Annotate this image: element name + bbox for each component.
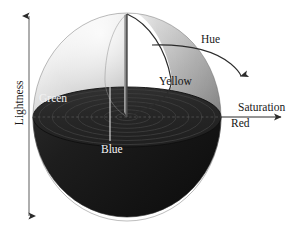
hue-annotation-label: Hue [201, 34, 220, 46]
hue-label-red: Red [231, 118, 250, 130]
hsl-color-sphere-figure [0, 0, 303, 232]
hue-label-green: Green [39, 93, 67, 105]
saturation-axis-label: Saturation [238, 102, 285, 114]
lightness-axis-label: Lightness [14, 63, 26, 143]
hue-label-yellow: Yellow [159, 76, 192, 88]
hue-label-blue: Blue [101, 144, 123, 156]
